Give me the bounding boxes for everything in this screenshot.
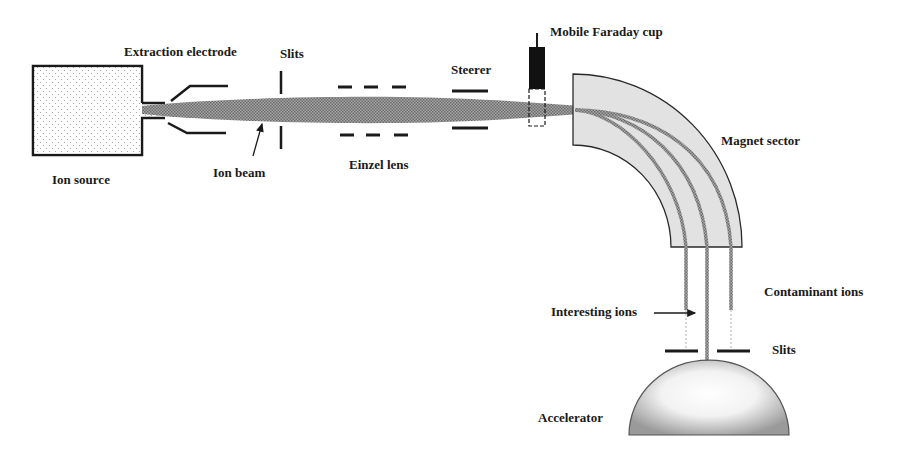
label-interesting-ions: Interesting ions bbox=[551, 304, 637, 320]
label-faraday-cup: Mobile Faraday cup bbox=[550, 24, 663, 40]
label-ion-beam: Ion beam bbox=[213, 165, 265, 181]
label-slits-top: Slits bbox=[280, 46, 304, 62]
label-contaminant-ions: Contaminant ions bbox=[764, 284, 863, 300]
ion-beam-pointer-arrow bbox=[253, 124, 262, 156]
label-einzel-lens: Einzel lens bbox=[349, 157, 409, 173]
label-steerer: Steerer bbox=[451, 62, 491, 78]
label-ion-source: Ion source bbox=[52, 172, 110, 188]
label-accelerator: Accelerator bbox=[538, 410, 603, 426]
label-magnet-sector: Magnet sector bbox=[721, 133, 800, 149]
ion-beam bbox=[142, 97, 580, 123]
label-slits-bottom: Slits bbox=[772, 342, 796, 358]
label-extraction-electrode: Extraction electrode bbox=[124, 44, 237, 60]
accelerator-dome bbox=[629, 360, 789, 435]
magnet-sector bbox=[573, 74, 742, 247]
